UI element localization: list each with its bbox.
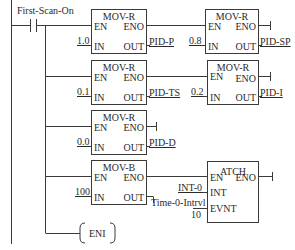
in-value: 0.2	[191, 87, 204, 97]
out-value: Time-0-Intrvl	[151, 198, 206, 208]
pin-eno: ENO	[123, 22, 144, 32]
mov-b-block[interactable]: MOV-B EN ENO IN OUT	[91, 160, 147, 205]
pin-en: EN	[94, 73, 107, 83]
pin-en: EN	[208, 22, 221, 32]
mov-r-block-pid-i[interactable]: MOV-R EN ENO IN OUT	[207, 60, 259, 105]
atch-block[interactable]: ATCH EN ENO INT EVNT	[207, 161, 259, 223]
pin-in: IN	[208, 42, 219, 52]
pin-out: OUT	[235, 42, 256, 52]
pin-in: IN	[94, 143, 105, 153]
pin-en: EN	[94, 173, 107, 183]
in-value: 0.0	[77, 137, 90, 147]
pin-en: EN	[94, 22, 107, 32]
contact-label: First-Scan-On	[17, 6, 74, 16]
in-value: 1.0	[77, 36, 90, 46]
in-value: 0.1	[77, 87, 90, 97]
coil-left-paren	[80, 223, 85, 243]
mov-r-block-pid-ts[interactable]: MOV-R EN ENO IN OUT	[91, 60, 147, 105]
pin-in: IN	[94, 93, 105, 103]
pin-evnt: EVNT	[210, 204, 237, 214]
pin-out: OUT	[123, 193, 144, 203]
out-value: PID-TS	[149, 88, 180, 98]
coil-label-eni: ENI	[89, 229, 106, 239]
pin-out: OUT	[123, 93, 144, 103]
pin-en: EN	[210, 173, 223, 183]
mov-r-block-pid-p[interactable]: MOV-R EN ENO IN OUT	[91, 9, 147, 54]
pin-en: EN	[210, 72, 223, 82]
pin-eno: ENO	[123, 173, 144, 183]
out-value: PID-SP	[260, 37, 291, 47]
in-value: 0.8	[189, 36, 202, 46]
evnt-value: 10	[191, 210, 201, 220]
pin-en: EN	[94, 123, 107, 133]
pin-in: IN	[94, 42, 105, 52]
pin-in: IN	[94, 193, 105, 203]
pin-eno: ENO	[235, 173, 256, 183]
ladder-diagram: First-Scan-On MOV-R EN ENO IN OUT 1.0 PI…	[0, 0, 295, 250]
out-value: PID-D	[149, 138, 176, 148]
pin-eno: ENO	[235, 74, 256, 84]
pin-eno: ENO	[235, 22, 256, 32]
int-value: INT-0	[178, 183, 202, 193]
pin-out: OUT	[235, 93, 256, 103]
pin-out: OUT	[123, 143, 144, 153]
pin-out: OUT	[123, 42, 144, 52]
in-value: 100	[75, 187, 90, 197]
pin-eno: ENO	[123, 73, 144, 83]
out-value: PID-I	[260, 88, 283, 98]
pin-in: IN	[210, 93, 221, 103]
pin-eno: ENO	[123, 123, 144, 133]
mov-r-block-pid-sp[interactable]: MOV-R EN ENO IN OUT	[205, 9, 259, 54]
mov-r-block-pid-d[interactable]: MOV-R EN ENO IN OUT	[91, 110, 147, 155]
coil-right-paren	[110, 223, 115, 243]
out-value: PID-P	[149, 37, 174, 47]
pin-int: INT	[210, 188, 227, 198]
